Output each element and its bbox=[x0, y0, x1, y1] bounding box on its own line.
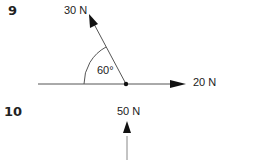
force-diagram bbox=[0, 0, 256, 160]
arrowhead-50n-icon bbox=[123, 121, 131, 133]
arrowhead-20n-icon bbox=[170, 80, 186, 88]
arrowhead-30n-icon bbox=[89, 14, 98, 28]
origin-dot bbox=[124, 82, 128, 86]
angle-arc bbox=[84, 47, 106, 84]
force-30n-line bbox=[94, 24, 126, 84]
